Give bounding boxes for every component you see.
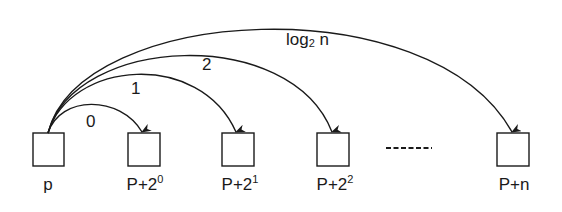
arc-label-log-base: 2 [309, 37, 315, 49]
arc-label-1: 1 [131, 79, 140, 99]
pointer-jumping-diagram: p P+20 P+21 P+22 P+n 0 1 2 log2 n [0, 0, 562, 212]
arc-label-log: log [286, 30, 309, 49]
arc-label-2: 2 [202, 55, 211, 75]
node-box-p-plus-2-1 [222, 133, 254, 166]
node-label-p-plus-2-1: P+21 [222, 175, 259, 195]
arc-label-n: n [315, 30, 329, 49]
arc-log2-n [48, 29, 512, 133]
arc-label-0: 0 [86, 112, 95, 132]
node-label-p-plus-n: P+n [499, 175, 530, 195]
arc-1 [48, 74, 236, 133]
node-label-exponent: 2 [347, 173, 353, 185]
node-label-exponent: 1 [252, 173, 258, 185]
node-label-base: P+n [499, 175, 530, 194]
diagram-graphics [0, 0, 562, 212]
node-label-p: p [43, 175, 52, 195]
node-label-p-plus-2-0: P+20 [127, 175, 164, 195]
node-box-p-plus-2-0 [128, 133, 160, 166]
node-label-exponent: 0 [157, 173, 163, 185]
node-label-base: P+2 [317, 175, 348, 194]
node-label-p-plus-2-2: P+22 [317, 175, 354, 195]
node-box-p-plus-n [497, 133, 529, 166]
node-box-p-plus-2-2 [317, 133, 349, 166]
arc-label-log2-n: log2 n [286, 30, 329, 50]
node-label-base: P+2 [127, 175, 158, 194]
node-label-p-base: p [43, 175, 52, 194]
node-box-p [33, 133, 64, 166]
node-label-base: P+2 [222, 175, 253, 194]
